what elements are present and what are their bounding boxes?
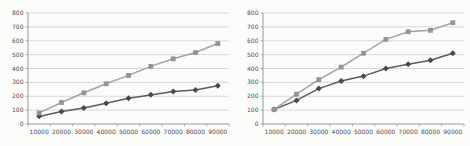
light-square-series-line <box>39 44 218 113</box>
y-tick-label: 100 <box>12 106 24 113</box>
y-tick-label: 200 <box>247 92 259 99</box>
square-marker-icon <box>316 77 321 82</box>
square-marker-icon <box>59 100 64 105</box>
square-marker-icon <box>428 28 433 33</box>
y-gridlines <box>263 13 464 110</box>
square-marker-icon <box>37 111 42 116</box>
y-tick-labels: 0100200300400500600700800 <box>12 9 24 127</box>
y-tick-label: 700 <box>247 23 259 30</box>
y-tick-label: 600 <box>247 37 259 44</box>
diamond-marker-icon <box>215 83 221 89</box>
diamond-marker-icon <box>383 66 389 72</box>
y-tick-label: 300 <box>247 78 259 85</box>
dark-diamond-series <box>271 50 456 112</box>
square-marker-icon <box>126 73 131 78</box>
square-marker-icon <box>361 51 366 56</box>
y-tick-label: 400 <box>247 65 259 72</box>
diamond-marker-icon <box>294 97 300 103</box>
x-tick-labels: 1000020000300004000050000600007000080000… <box>265 128 463 135</box>
square-marker-icon <box>383 37 388 42</box>
y-tick-label: 0 <box>255 120 259 127</box>
x-tick-label: 50000 <box>354 128 373 135</box>
x-tick-label: 90000 <box>208 128 227 135</box>
line-chart-left: 0100200300400500600700800100002000030000… <box>0 0 235 146</box>
tick-marks <box>26 13 230 127</box>
x-tick-label: 40000 <box>97 128 116 135</box>
diamond-marker-icon <box>59 109 65 115</box>
x-tick-label: 30000 <box>74 128 93 135</box>
x-tick-label: 30000 <box>309 128 328 135</box>
x-tick-label: 40000 <box>332 128 351 135</box>
x-tick-label: 70000 <box>399 128 418 135</box>
x-tick-label: 50000 <box>119 128 138 135</box>
y-tick-label: 300 <box>12 78 24 85</box>
square-marker-icon <box>104 81 109 86</box>
x-tick-label: 10000 <box>30 128 49 135</box>
diamond-marker-icon <box>193 87 199 93</box>
y-tick-label: 800 <box>247 9 259 16</box>
square-marker-icon <box>215 41 220 46</box>
diamond-marker-icon <box>405 61 411 67</box>
diamond-marker-icon <box>316 86 322 92</box>
y-tick-label: 800 <box>12 9 24 16</box>
square-marker-icon <box>148 64 153 69</box>
diamond-marker-icon <box>103 100 109 106</box>
diamond-marker-icon <box>361 73 367 79</box>
x-tick-label: 20000 <box>52 128 71 135</box>
diamond-marker-icon <box>170 88 176 94</box>
y-tick-label: 500 <box>12 51 24 58</box>
diamond-marker-icon <box>338 78 344 84</box>
square-marker-icon <box>171 56 176 61</box>
line-chart-right: 0100200300400500600700800100002000030000… <box>235 0 470 146</box>
square-marker-icon <box>450 20 455 25</box>
square-marker-icon <box>272 107 277 112</box>
y-tick-label: 700 <box>12 23 24 30</box>
x-tick-label: 60000 <box>376 128 395 135</box>
x-tick-label: 80000 <box>186 128 205 135</box>
dark-diamond-series-line <box>274 53 453 109</box>
square-marker-icon <box>193 50 198 55</box>
y-tick-label: 100 <box>247 106 259 113</box>
square-marker-icon <box>406 29 411 34</box>
square-marker-icon <box>294 92 299 97</box>
chart-canvas-left: 0100200300400500600700800100002000030000… <box>0 0 235 146</box>
y-tick-label: 500 <box>247 51 259 58</box>
x-tick-label: 10000 <box>265 128 284 135</box>
y-tick-label: 400 <box>12 65 24 72</box>
x-tick-label: 90000 <box>443 128 462 135</box>
light-square-series <box>37 41 220 115</box>
diamond-marker-icon <box>450 50 456 56</box>
x-tick-label: 60000 <box>141 128 160 135</box>
x-tick-labels: 1000020000300004000050000600007000080000… <box>30 128 228 135</box>
y-tick-labels: 0100200300400500600700800 <box>247 9 259 127</box>
chart-canvas-right: 0100200300400500600700800100002000030000… <box>235 0 470 146</box>
square-marker-icon <box>81 90 86 95</box>
charts-row: 0100200300400500600700800100002000030000… <box>0 0 470 146</box>
y-tick-label: 0 <box>20 120 24 127</box>
y-tick-label: 200 <box>12 92 24 99</box>
square-marker-icon <box>339 65 344 70</box>
diamond-marker-icon <box>148 92 154 98</box>
y-tick-label: 600 <box>12 37 24 44</box>
x-tick-label: 80000 <box>421 128 440 135</box>
x-tick-label: 20000 <box>287 128 306 135</box>
x-tick-label: 70000 <box>164 128 183 135</box>
diamond-marker-icon <box>428 57 434 63</box>
